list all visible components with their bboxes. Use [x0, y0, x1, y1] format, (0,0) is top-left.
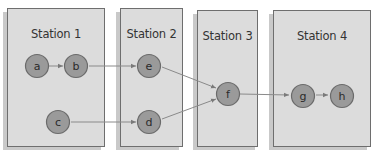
svg-text:e: e — [146, 60, 153, 73]
edge-d-f — [162, 99, 216, 119]
svg-text:g: g — [300, 90, 307, 103]
node-d: d — [138, 111, 161, 134]
svg-text:c: c — [55, 116, 61, 129]
svg-text:b: b — [73, 60, 80, 73]
svg-text:a: a — [34, 60, 41, 73]
edge-e-f — [162, 67, 216, 88]
node-e: e — [138, 55, 161, 78]
edges — [49, 66, 328, 122]
node-c: c — [47, 111, 70, 134]
edge-f-g — [240, 94, 289, 95]
flow-diagram: a b c e d f g h — [0, 0, 377, 157]
node-b: b — [65, 55, 88, 78]
node-g: g — [292, 85, 315, 108]
svg-text:d: d — [146, 116, 153, 129]
svg-text:h: h — [339, 90, 346, 103]
node-f: f — [217, 83, 240, 106]
node-a: a — [26, 55, 49, 78]
node-h: h — [331, 85, 354, 108]
